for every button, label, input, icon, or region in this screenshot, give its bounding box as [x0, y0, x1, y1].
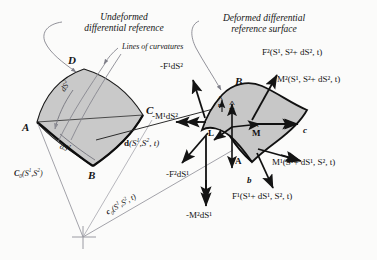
resultant-label-neg-force-2: -F²dS¹ [166, 170, 189, 180]
unit-vector-m-hat-label: M [252, 128, 261, 138]
resultant-label-neg-moment-2: -M²dS¹ [186, 211, 212, 221]
deformed-title: Deformed differential reference surface [205, 13, 323, 35]
n-hat-glyph: n [218, 101, 222, 109]
undeformed-position-label: C0(S1,S2) [14, 168, 43, 180]
resultant-label-neg-moment-1: -M¹dS² [152, 112, 178, 122]
resultant-label-moment-1-plus-ds1: M¹(S¹+ dS¹, S², t) [272, 158, 335, 168]
deformed-title-line1: Deformed differential [205, 13, 323, 24]
figure-canvas: Undeformed differential reference Deform… [0, 0, 377, 260]
vertex-label-D: D [68, 55, 76, 67]
resultant-label-moment-2-plus-ds2: M²(S¹, S²+ dS², t) [277, 75, 340, 85]
displacement-args: (S [129, 138, 137, 148]
deformed-vertex-label-c: c [303, 126, 307, 136]
diagram-vector-layer [0, 0, 377, 260]
unit-vector-n-hat-label: n [218, 101, 222, 109]
resultant-label-neg-force-1: -F¹dS² [160, 62, 183, 72]
vertex-label-A: A [22, 122, 29, 134]
unit-vector-f-hat-label: F [229, 106, 235, 116]
deformed-position-vector [83, 150, 233, 237]
undeformed-title-line1: Undeformed [68, 12, 180, 23]
f-hat-glyph: F [229, 106, 235, 116]
displacement-time: , t) [149, 138, 159, 148]
undeformed-position-close: ) [40, 169, 43, 178]
lines-of-curvature-label: Lines of curvatures [122, 43, 183, 52]
unit-vector-a-label: A [235, 156, 242, 166]
resultant-label-force-1-plus-ds1: F¹(S¹+ dS¹, S², t) [232, 192, 292, 202]
deformed-vertex-label-b: b [247, 176, 252, 186]
deformed-vertex-label-B: B [235, 76, 242, 88]
undeformed-surface [37, 69, 143, 166]
vertex-label-B: B [88, 170, 95, 182]
deformed-title-line2: reference surface [205, 24, 323, 35]
undeformed-title: Undeformed differential reference [68, 12, 180, 34]
m-hat-glyph: M [252, 128, 261, 138]
undeformed-title-line2: differential reference [68, 23, 180, 34]
displacement-vector-label: d(S1,S2, t) [124, 137, 159, 149]
origin-cross-marker [72, 226, 96, 249]
undeformed-position-args: (S [22, 169, 29, 178]
resultant-label-force-2-plus-ds2: F²(S¹, S²+ dS², t) [262, 48, 322, 58]
unit-vector-l-label: L [208, 128, 214, 138]
